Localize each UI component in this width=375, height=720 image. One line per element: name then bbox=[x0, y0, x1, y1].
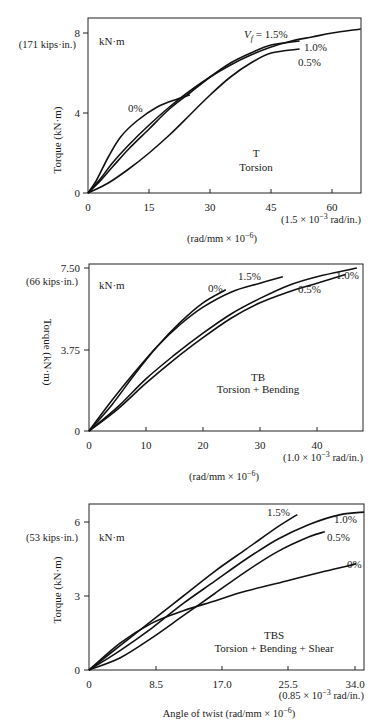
series-curve-0% bbox=[89, 564, 356, 670]
x-tick-label: 20 bbox=[198, 439, 210, 451]
y-tick-label: 7.50 bbox=[61, 262, 81, 274]
legend-label-1.0: 1.0% bbox=[304, 41, 327, 53]
chart-subtitle: Torsion + Bending + Shear bbox=[214, 642, 334, 654]
unit-label: kN·m bbox=[99, 35, 125, 47]
y-tick-label: 4 bbox=[75, 107, 81, 119]
legend-label-1.5: 1.5% bbox=[238, 270, 261, 282]
chart-subtitle: Torsion bbox=[239, 161, 273, 173]
x-tick-label: 30 bbox=[255, 439, 267, 451]
legend-label-0: 0% bbox=[208, 282, 223, 294]
x-axis-label: (rad/mm × 10−6) bbox=[189, 469, 259, 483]
y-secondary-label: (66 kips·in.) bbox=[26, 276, 78, 288]
y-tick-label: 6 bbox=[75, 516, 81, 528]
y-axis-label: Torque (kN·m) bbox=[41, 319, 54, 386]
x-tick-label: 34.0 bbox=[345, 678, 365, 690]
legend-label-0.5: 0.5% bbox=[327, 531, 350, 543]
x-tick-label: 30 bbox=[205, 201, 217, 213]
chart-title: T bbox=[253, 147, 260, 159]
x-axis-label: (rad/mm × 10−6) bbox=[187, 231, 257, 245]
x-tick-label: 10 bbox=[141, 439, 153, 451]
legend-label-0: 0% bbox=[128, 102, 143, 114]
figure-root: 8 4 0 (171 kips·in.) 0 15 30 45 60 (1.5 … bbox=[0, 0, 375, 720]
chart-torsion-bending: 7.50 3.75 0 (66 kips·in.) 0 10 20 30 40 … bbox=[26, 262, 363, 483]
chart-title: TBS bbox=[264, 629, 284, 641]
y-tick-label: 0 bbox=[75, 187, 81, 199]
x-secondary-label: (1.5 × 10−3 rad/in.) bbox=[281, 212, 362, 226]
y-tick-label: 0 bbox=[75, 425, 81, 437]
x-tick-label: 60 bbox=[327, 201, 339, 213]
legend-label-1.5: Vf = 1.5% bbox=[244, 28, 288, 43]
unit-label: kN·m bbox=[99, 279, 125, 291]
x-tick-label: 25.5 bbox=[278, 678, 298, 690]
legend-label-1.0: 1.0% bbox=[336, 269, 359, 281]
x-axis-label: Angle of twist (rad/mm × 10−6) bbox=[163, 706, 296, 720]
chart-subtitle: Torsion + Bending bbox=[217, 383, 300, 395]
chart-frame bbox=[89, 264, 363, 431]
y-secondary-label: (53 kips·in.) bbox=[26, 532, 78, 544]
y-tick-label: 8 bbox=[75, 27, 81, 39]
y-secondary-label: (171 kips·in.) bbox=[19, 39, 77, 51]
x-tick-label: 8.5 bbox=[149, 678, 163, 690]
legend-label-1.5: 1.5% bbox=[267, 506, 290, 518]
unit-label: kN·m bbox=[99, 531, 125, 543]
x-tick-label: 0 bbox=[86, 439, 92, 451]
y-tick-label: 3.75 bbox=[61, 344, 81, 356]
y-tick-label: 0 bbox=[75, 664, 81, 676]
legend-label-0.5: 0.5% bbox=[298, 56, 321, 68]
legend-label-0.5: 0.5% bbox=[298, 283, 321, 295]
x-tick-label: 0 bbox=[85, 201, 91, 213]
chart-torsion: 8 4 0 (171 kips·in.) 0 15 30 45 60 (1.5 … bbox=[19, 18, 362, 245]
legend-label-1.0: 1.0% bbox=[334, 513, 357, 525]
chart-torsion-bending-shear: 6 3 0 (53 kips·in.) 0 8.5 17.0 25.5 34.0… bbox=[26, 504, 365, 720]
x-secondary-label: (0.85 × 10−3 rad/in.) bbox=[279, 688, 365, 702]
legend-label-0: 0% bbox=[347, 558, 362, 570]
series-curve-0% bbox=[89, 290, 226, 431]
x-secondary-label: (1.0 × 10−3 rad/in.) bbox=[283, 450, 364, 464]
x-tick-label: 0 bbox=[86, 678, 92, 690]
chart-title: TB bbox=[251, 371, 265, 383]
x-tick-label: 17.0 bbox=[212, 678, 232, 690]
y-tick-label: 3 bbox=[75, 590, 81, 602]
x-tick-label: 45 bbox=[266, 201, 278, 213]
y-axis-label: Torque (kN·m) bbox=[51, 106, 64, 173]
y-axis-label: Torque (kN·m) bbox=[51, 556, 64, 623]
x-tick-label: 15 bbox=[144, 201, 156, 213]
